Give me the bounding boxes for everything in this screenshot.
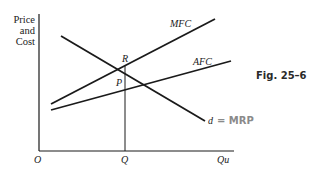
afc-curve <box>51 61 231 110</box>
demand-label: d <box>208 115 214 126</box>
origin-label: O <box>34 154 41 165</box>
figure-label: Fig. 25–6 <box>256 70 307 81</box>
mfc-label: MFC <box>169 18 191 29</box>
mrp-annotation: = MRP <box>217 115 254 126</box>
mfc-curve <box>51 19 215 104</box>
x-axis-label: Qu <box>217 154 229 165</box>
point-r-label: R <box>121 53 128 64</box>
y-axis-label-line1: Price <box>13 14 35 25</box>
point-p-label: P <box>115 77 122 88</box>
diagram-canvas: Price and Cost MFC AFC d = MRP R P O Q Q… <box>0 0 317 173</box>
y-axis-label-line3: Cost <box>16 36 35 47</box>
afc-label: AFC <box>192 56 212 67</box>
demand-curve <box>61 36 205 121</box>
y-axis-label-line2: and <box>20 25 36 36</box>
q-label: Q <box>121 154 129 165</box>
